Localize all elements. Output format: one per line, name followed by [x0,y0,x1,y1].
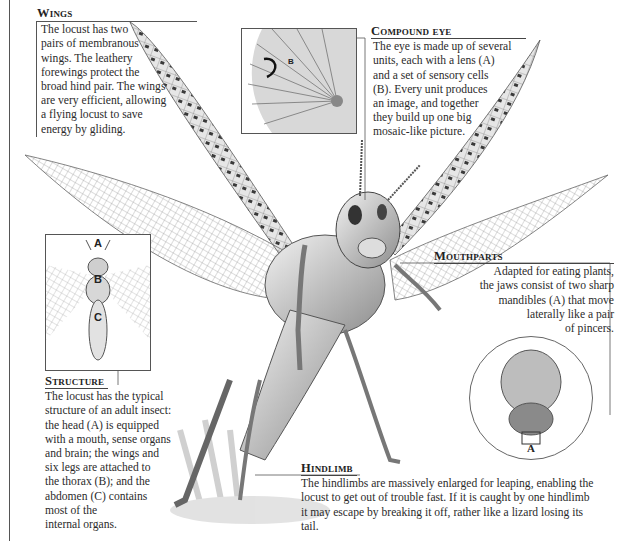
structure-inset: A B C [45,234,151,371]
structure-label-b: B [94,273,102,285]
top-view-locust [46,235,150,370]
structure-label-a: A [94,237,102,249]
mouthparts-label-a: A [527,442,535,454]
wings-text: The locust has two pairs of membranous w… [36,21,197,137]
eye-leader-line [356,38,365,200]
compound-eye-heading: Compound eye [371,24,526,39]
locust-body [175,140,440,505]
structure-caption: Structure The locust has the typical str… [45,374,200,532]
mouthparts-text: Adapted for eating plants, the jaws cons… [424,265,614,336]
compound-eye-caption: Compound eye The eye is made up of sever… [371,24,526,140]
compound-eye-inset: B [241,28,357,134]
head-front-view [470,337,592,459]
hindlimb-heading: Hindlimb [301,461,357,476]
hindlimb-caption: Hindlimb The hindlimbs are massively enl… [301,461,601,534]
compound-eye-text: The eye is made up of several units, eac… [371,40,526,139]
mouthparts-heading: Mouthparts [434,249,614,264]
hindlimb-text: The hindlimbs are massively enlarged for… [301,477,601,534]
structure-text: The locust has the typical structure of … [45,390,200,532]
wings-heading: Wings [37,6,77,20]
mouthparts-inset: A [469,336,593,460]
eye-label-b: B [288,57,294,66]
structure-heading: Structure [45,374,108,389]
structure-label-c: C [94,311,102,323]
wings-caption: Wings The locust has two pairs of membra… [37,6,197,137]
eye-facet-diagram [242,29,356,133]
mouthparts-caption: Mouthparts Adapted for eating plants, th… [424,249,614,336]
